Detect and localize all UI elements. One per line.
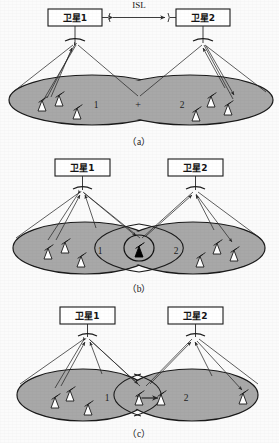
panel-a-caption: （a）	[127, 136, 151, 147]
satellite-coverage-figure: 卫星1 卫星2 ISL	[0, 0, 279, 443]
satellite-box-right[interactable]: 卫星2	[176, 9, 230, 26]
satellite-right-label: 卫星2	[191, 13, 215, 23]
satellite-left-dish	[73, 176, 92, 190]
isl-label: ISL	[132, 0, 146, 10]
satellite-left-dish	[65, 26, 85, 43]
zone-left-label: 1	[94, 100, 99, 110]
coverage-area-merged	[9, 75, 273, 125]
panel-c: 卫星1 卫星2	[0, 298, 279, 443]
satellite-right-dish	[186, 176, 205, 190]
zone-left-label: 1	[105, 393, 110, 403]
panel-a: 卫星1 卫星2 ISL	[0, 0, 279, 150]
panel-b: 卫星1 卫星2	[0, 150, 279, 298]
satellite-box-right[interactable]: 卫星2	[168, 159, 223, 176]
satellite-left-label: 卫星1	[75, 311, 99, 321]
satellite-box-left[interactable]: 卫星1	[55, 159, 110, 176]
satellite-right-label: 卫星2	[183, 163, 207, 173]
zone-right-label: 2	[174, 246, 179, 256]
zone-right-label: 2	[184, 393, 189, 403]
satellite-right-dish	[193, 26, 213, 43]
panel-b-caption: （b）	[127, 283, 152, 294]
isl-link: ISL	[102, 0, 176, 22]
zone-right-label: 2	[180, 100, 185, 110]
zone-left-label: 1	[98, 246, 103, 256]
satellite-left-label: 卫星1	[70, 163, 94, 173]
zone-join-label: +	[135, 99, 141, 110]
satellite-left-label: 卫星1	[63, 13, 87, 23]
satellite-left-dish	[78, 324, 97, 337]
satellite-box-left[interactable]: 卫星1	[60, 307, 115, 324]
satellite-right-dish	[186, 324, 205, 337]
satellite-box-right[interactable]: 卫星2	[168, 307, 223, 324]
satellite-right-label: 卫星2	[183, 311, 207, 321]
panel-c-caption: （c）	[127, 428, 151, 439]
satellite-box-left[interactable]: 卫星1	[48, 9, 102, 26]
